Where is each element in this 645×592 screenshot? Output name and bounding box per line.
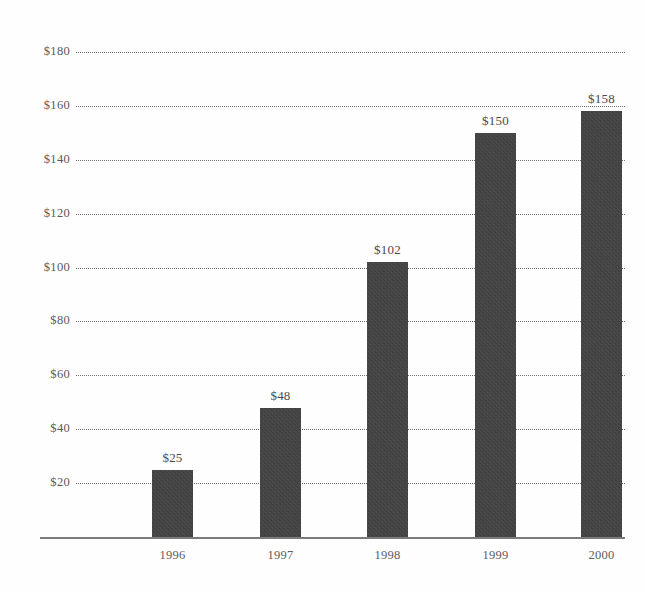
y-tick-180: $180: [18, 44, 70, 60]
bar-value-label-1996: $25: [133, 450, 213, 466]
y-tick-100: $100: [18, 260, 70, 276]
x-axis-line: [40, 537, 625, 539]
y-tick-120: $120: [18, 206, 70, 222]
y-tick-80: $80: [18, 313, 70, 329]
gridline-120: [76, 214, 625, 215]
gridline-80: [76, 321, 625, 322]
bar-1998: [367, 262, 408, 537]
bar-2000: [581, 111, 622, 537]
gridline-60: [76, 375, 625, 376]
y-tick-20: $20: [18, 475, 70, 491]
x-tick-label-1996: 1996: [133, 548, 213, 563]
gridline-160: [76, 106, 625, 107]
bar-value-label-2000: $158: [562, 91, 642, 107]
bar-chart-figure: $180$160$140$120$100$80$60$40$20 $25$48$…: [0, 0, 645, 592]
gridline-180: [76, 52, 625, 53]
y-tick-label: $20: [24, 475, 70, 490]
plot-area: $180$160$140$120$100$80$60$40$20 $25$48$…: [0, 0, 645, 592]
x-tick-label-1999: 1999: [456, 548, 536, 563]
y-tick-40: $40: [18, 421, 70, 437]
bar-value-label-1999: $150: [456, 113, 536, 129]
y-tick-label: $120: [24, 206, 70, 221]
y-tick-140: $140: [18, 152, 70, 168]
x-tick-label-1997: 1997: [241, 548, 321, 563]
y-tick-60: $60: [18, 367, 70, 383]
y-tick-label: $60: [24, 367, 70, 382]
gridline-40: [76, 429, 625, 430]
bar-value-label-1997: $48: [241, 388, 321, 404]
bar-1996: [152, 470, 193, 537]
x-tick-label-2000: 2000: [562, 548, 642, 563]
y-tick-label: $180: [24, 44, 70, 59]
y-tick-160: $160: [18, 98, 70, 114]
gridline-100: [76, 268, 625, 269]
bar-1997: [260, 408, 301, 537]
bar-1999: [475, 133, 516, 537]
y-tick-label: $160: [24, 98, 70, 113]
y-tick-label: $140: [24, 152, 70, 167]
bar-value-label-1998: $102: [348, 242, 428, 258]
y-tick-label: $80: [24, 313, 70, 328]
y-tick-label: $40: [24, 421, 70, 436]
gridline-140: [76, 160, 625, 161]
y-tick-label: $100: [24, 260, 70, 275]
x-tick-label-1998: 1998: [348, 548, 428, 563]
